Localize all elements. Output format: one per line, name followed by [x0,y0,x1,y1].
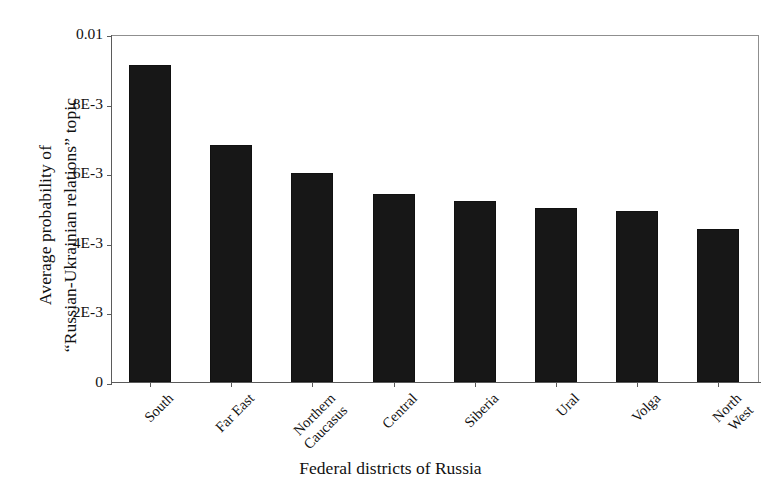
y-axis-tick-label: 2E-3 [73,303,103,321]
bar [616,211,658,382]
bar [291,173,333,382]
y-axis-tick-mark [107,314,112,315]
bar [373,194,415,382]
bar [697,229,739,382]
x-axis-tick-mark [150,382,151,387]
y-axis-tick-label: 8E-3 [73,95,103,113]
bar [454,201,496,382]
y-axis-tick-label: 0.01 [76,25,103,43]
x-axis-line [111,382,761,383]
y-axis-title-line-1: Average probability of [33,45,58,405]
y-axis-tick-label: 6E-3 [73,164,103,182]
x-axis-tick-mark [718,382,719,387]
y-axis-tick-mark [107,106,112,107]
plot-area: 02E-34E-36E-38E-30.01 [111,35,759,383]
y-axis-tick-label: 0 [95,373,103,391]
y-axis-tick-mark [107,175,112,176]
bar-chart-figure: Average probability of “Russian-Ukrainia… [0,0,781,494]
x-axis-title: Federal districts of Russia [0,458,781,479]
y-axis-line [111,35,112,385]
y-axis-tick-mark [107,36,112,37]
x-axis-tick-mark [637,382,638,387]
x-axis-tick-mark [475,382,476,387]
x-axis-tick-mark [556,382,557,387]
y-axis-tick-mark [107,245,112,246]
x-axis-tick-mark [394,382,395,387]
y-axis-tick-label: 4E-3 [73,234,103,252]
y-axis-tick-mark [107,384,112,385]
bar [129,65,171,382]
bar [210,145,252,382]
x-axis-tick-mark [312,382,313,387]
bar [535,208,577,382]
x-axis-tick-mark [231,382,232,387]
